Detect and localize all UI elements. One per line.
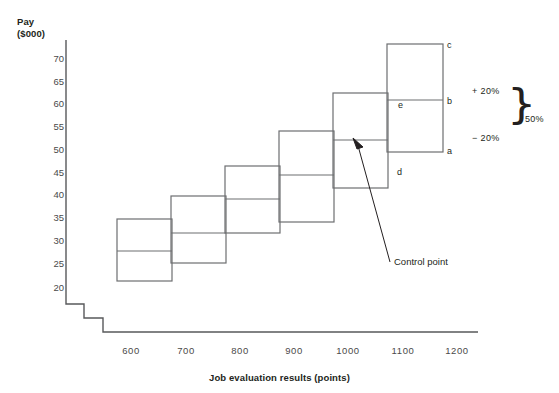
point-label-b: b xyxy=(447,96,452,106)
point-label-a: a xyxy=(447,146,452,156)
chart-graphics xyxy=(0,0,559,393)
point-label-d: d xyxy=(397,167,402,177)
control-point-label: Control point xyxy=(394,256,448,267)
minus-20-label: − 20% xyxy=(472,133,500,143)
point-label-c: c xyxy=(447,40,452,50)
grade-box-6 xyxy=(387,44,443,152)
point-label-e: e xyxy=(398,100,403,110)
grade-box-2 xyxy=(171,196,226,263)
axis-stepped-path xyxy=(66,40,478,332)
chart-canvas: Pay ($000) 70 65 60 55 50 45 40 35 30 25… xyxy=(0,0,559,393)
grade-box-1 xyxy=(117,219,172,281)
x-axis-title: Job evaluation results (points) xyxy=(0,372,559,383)
grade-box-4 xyxy=(279,131,334,222)
control-point-arrow xyxy=(353,138,390,262)
range-spread-label: 50% xyxy=(525,114,544,124)
plus-20-label: + 20% xyxy=(472,86,500,96)
